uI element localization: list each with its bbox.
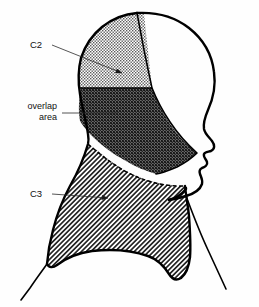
c2-region bbox=[79, 13, 152, 88]
dermatome-diagram-svg: C2 overlap area C3 bbox=[0, 0, 259, 307]
overlap-label-line1: overlap bbox=[27, 101, 57, 111]
left-shoulder-line bbox=[21, 264, 47, 300]
overlap-label-line2: area bbox=[39, 112, 57, 122]
c2-label-text: C2 bbox=[30, 39, 42, 50]
anterior-neck-line bbox=[186, 196, 226, 289]
c3-label-text: C3 bbox=[30, 188, 42, 199]
dermatome-figure: C2 overlap area C3 bbox=[0, 0, 259, 307]
